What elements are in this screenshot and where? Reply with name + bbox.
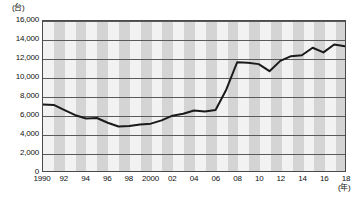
x-axis-tick-label: 96 — [103, 174, 112, 183]
series-line — [43, 44, 345, 126]
x-axis-tick-label: 16 — [320, 174, 329, 183]
series-line-svg — [43, 21, 345, 171]
y-axis-tick-label: 16,000 — [0, 16, 39, 24]
x-axis-tick-label: 18 — [342, 174, 351, 183]
plot-area — [42, 20, 346, 172]
x-axis-tick-label: 02 — [168, 174, 177, 183]
x-axis-tick-label: 1990 — [34, 174, 51, 183]
x-axis-tick-label: 2000 — [142, 174, 159, 183]
x-axis-tick-labels: 1990929496982000020406081012141618 — [42, 174, 346, 188]
x-axis-tick-label: 10 — [255, 174, 264, 183]
x-axis-unit-label: (年) — [338, 184, 350, 192]
x-axis-tick-label: 94 — [81, 174, 90, 183]
y-axis-tick-label: 4,000 — [0, 130, 39, 138]
x-axis-tick-label: 06 — [211, 174, 220, 183]
x-axis-tick-label: 14 — [298, 174, 307, 183]
line-chart: (台) 02,0004,0006,0008,00010,00012,00014,… — [0, 0, 354, 200]
data-series-layer — [43, 21, 345, 171]
y-axis-tick-label: 2,000 — [0, 149, 39, 157]
x-axis-tick-label: 04 — [190, 174, 199, 183]
y-axis-tick-label: 8,000 — [0, 92, 39, 100]
x-axis-tick-label: 98 — [125, 174, 134, 183]
y-axis-tick-label: 14,000 — [0, 35, 39, 43]
y-axis-tick-label: 6,000 — [0, 111, 39, 119]
x-axis-tick-label: 12 — [277, 174, 286, 183]
y-axis-tick-label: 10,000 — [0, 73, 39, 81]
y-axis-tick-labels: 02,0004,0006,0008,00010,00012,00014,0001… — [0, 0, 39, 200]
y-axis-tick-label: 12,000 — [0, 54, 39, 62]
x-axis-tick-label: 08 — [233, 174, 242, 183]
x-axis-tick-label: 92 — [59, 174, 68, 183]
